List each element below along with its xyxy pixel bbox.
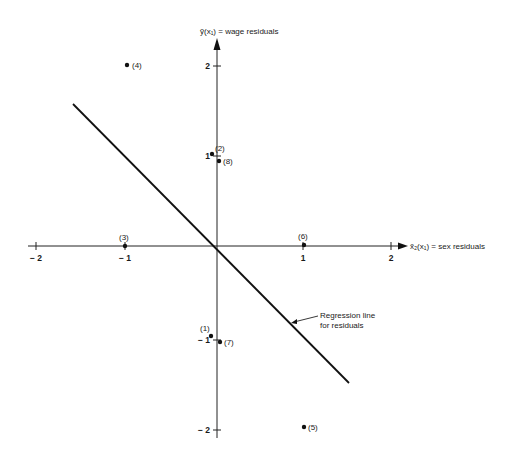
point-label: (1) xyxy=(200,324,210,333)
x-tick-label: − 2 xyxy=(30,253,42,263)
annotation-arrow-icon xyxy=(291,319,297,324)
x-tick-label: 1 xyxy=(301,253,306,263)
y-axis-arrow-icon xyxy=(214,38,221,50)
x-axis-title: x̃₂(x₁) = sex residuals xyxy=(410,242,485,251)
point-5 xyxy=(302,425,306,429)
y-tick-label: − 2 xyxy=(198,425,210,435)
x-tick-label: 2 xyxy=(389,253,394,263)
point-3 xyxy=(123,244,127,248)
point-2 xyxy=(210,152,214,156)
point-label: (7) xyxy=(224,338,234,347)
point-6 xyxy=(302,243,306,247)
x-tick-label: − 1 xyxy=(119,253,131,263)
annotation-line1: Regression line xyxy=(320,311,376,320)
point-label: (5) xyxy=(308,423,318,432)
point-7 xyxy=(218,340,222,344)
regression-line xyxy=(73,104,349,383)
point-label: (3) xyxy=(119,233,129,242)
point-1 xyxy=(209,334,213,338)
point-4 xyxy=(125,63,129,67)
annotation-leader xyxy=(294,316,318,322)
y-tick-label: 2 xyxy=(205,61,210,71)
y-tick-label: − 1 xyxy=(198,335,210,345)
residual-scatter-chart: − 2 − 1 1 2 2 1 − 1 − 2 ỹ(x₁) = wage re… xyxy=(0,0,506,459)
point-label: (6) xyxy=(298,232,308,241)
point-label: (2) xyxy=(215,144,225,153)
y-axis-title: ỹ(x₁) = wage residuals xyxy=(200,27,279,36)
y-tick-label: 1 xyxy=(205,151,210,161)
annotation-line2: for residuals xyxy=(320,321,364,330)
x-axis-arrow-icon xyxy=(398,243,408,250)
point-8 xyxy=(217,159,221,163)
point-label: (4) xyxy=(132,61,142,70)
point-label: (8) xyxy=(223,157,233,166)
